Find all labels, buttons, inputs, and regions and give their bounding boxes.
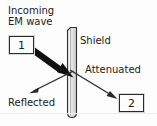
label-incoming-line-2: EM wave — [8, 16, 53, 27]
label-shield: Shield — [80, 35, 111, 46]
label-incoming-line-1: Incoming — [8, 5, 54, 16]
label-incoming-em-wave: Incoming EM wave — [8, 5, 70, 27]
label-reflected: Reflected — [8, 97, 55, 108]
bottom-edge-artifact — [0, 113, 157, 114]
port-box-1: 1 — [9, 36, 34, 54]
label-attenuated: Attenuated — [85, 64, 141, 75]
reflected-wave-arrow — [29, 71, 74, 93]
em-shielding-diagram: Incoming EM wave Shield Attenuated Refle… — [0, 0, 157, 126]
port-box-2: 2 — [119, 94, 144, 112]
attenuated-wave-arrow-head — [107, 91, 118, 99]
incoming-wave-arrow — [30, 47, 74, 78]
